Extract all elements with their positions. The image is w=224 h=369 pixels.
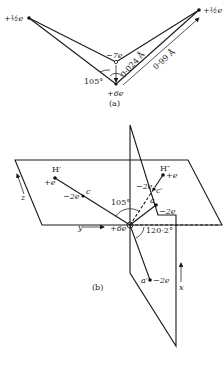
line-mh-left [29,18,116,62]
h1-charge: +e [44,178,56,187]
vertical-plane [130,125,176,346]
c2-charge: −2e [136,182,153,191]
bond-o-a [130,205,156,225]
z-axis-label: z [20,193,26,202]
z-axis-arrow [17,174,24,194]
c1-point [81,194,84,197]
h2-charge: +e [166,171,178,180]
angle-label: 105° [84,77,103,86]
part-a-diagram: +½e +½e −7e +6e 105° 0·024 Å 0·99 Å (a) [4,6,222,108]
o-charge: +6e [107,89,124,98]
c1-name: c [86,187,91,196]
c2-name: c′ [156,186,162,195]
angle-hoh-label: 105° [111,198,130,207]
caption-a: (a) [109,99,120,108]
m-charge: −7e [106,51,123,60]
h-left-charge: +½e [4,14,23,23]
om-distance: 0·024 Å [119,50,147,79]
oh-distance: 0·99 Å [151,47,177,71]
a-name: a [150,196,155,205]
h-left-point [27,16,31,20]
angle-arc-120 [136,227,144,238]
horizontal-plane [15,160,222,225]
part-b-diagram: H′ +e c −2e H″ +e c′ −2e a −2e a′ −2e +6… [15,125,222,346]
bond-oh-left [29,18,116,84]
x-axis-label: x [179,283,184,292]
y-axis-label: y [77,223,83,232]
h-right-point [197,8,201,12]
water-molecule-diagram: +½e +½e −7e +6e 105° 0·024 Å 0·99 Å (a) [0,0,224,369]
caption-b: (b) [92,283,103,292]
h-right-charge: +½e [203,6,222,15]
oh-dimension-line [123,18,199,85]
a2-point [148,278,152,282]
a2-charge: −2e [153,276,170,285]
o-charge-b: +6e [110,224,127,233]
angle-arc-105 [100,70,110,72]
o-point [114,82,117,85]
m-point [114,60,117,63]
c1-charge: −2e [63,192,80,201]
angle-tet-label: 120·2° [146,226,173,235]
h1-name: H′ [52,165,61,174]
a-charge: −2e [159,207,176,216]
h2-point [161,173,165,177]
a2-name: a′ [141,276,148,285]
